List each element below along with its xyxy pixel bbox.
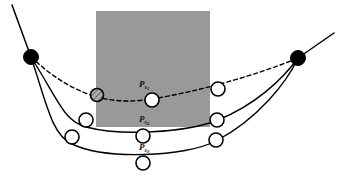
curve-label-s2-sub: s2 [145,119,150,125]
control-point-s2-right [210,113,224,127]
control-point-s1-mid [145,93,159,107]
curve-label-s3: Ps3 [139,143,149,152]
diagram-canvas: Ps1 Ps2 Ps3 [0,0,344,178]
control-point-s3-right [209,133,223,147]
control-point-s2-mid [136,129,150,143]
control-point-s1-left [91,89,104,102]
curve-label-s1-sub: s1 [145,84,150,90]
control-point-s1-right [211,82,225,96]
left-endpoint [24,50,39,65]
curve-label-s2: Ps2 [139,115,149,124]
control-point-s3-left [65,130,79,144]
control-point-s3-mid [136,156,150,170]
right-endpoint [291,51,306,66]
left-tail-line [12,5,31,57]
curve-label-s1: Ps1 [139,80,149,89]
gray-occlusion-rectangle [96,11,210,127]
curve-label-s3-sub: s3 [145,147,150,153]
diagram-svg [0,0,344,178]
control-point-s2-left [79,113,93,127]
